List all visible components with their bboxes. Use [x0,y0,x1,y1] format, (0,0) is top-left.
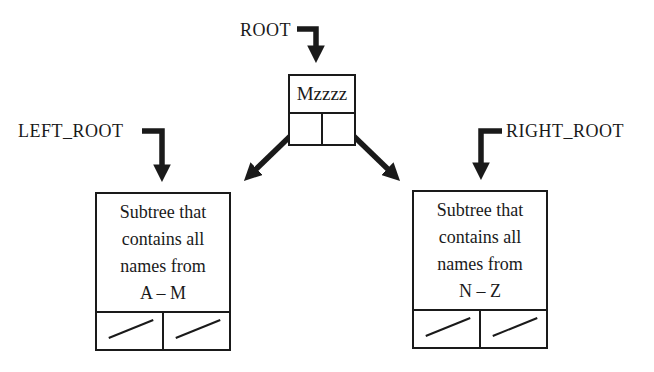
right-subtree-text: Subtree that contains all names from N –… [414,192,546,311]
right-subtree-line: Subtree that [437,197,523,224]
left-subtree-right-pointer-cell [162,313,229,349]
right-subtree-left-pointer-cell [414,311,479,347]
root-node-value: Mzzzz [290,76,354,114]
null-pointer-slash [175,319,220,339]
right-subtree-node: Subtree that contains all names from N –… [412,190,548,349]
right-subtree-right-pointer-cell [479,311,546,347]
left-subtree-pointer-row [97,313,229,349]
root-left-pointer-cell [290,114,321,144]
left-subtree-line: A – M [140,280,186,307]
root-node: Mzzzz [288,74,356,146]
left-subtree-line: Subtree that [120,199,206,226]
right-subtree-line: N – Z [459,278,501,305]
root-pointer-label: ROOT [240,20,291,41]
right-subtree-line: names from [437,251,522,278]
null-pointer-slash [108,319,153,339]
left-subtree-node: Subtree that contains all names from A –… [95,192,231,351]
right-subtree-line: contains all [439,224,521,251]
null-pointer-slash [425,317,470,337]
left-subtree-left-pointer-cell [97,313,162,349]
root-arrow [297,29,316,56]
right-root-arrow [481,131,502,173]
right-subtree-pointer-row [414,311,546,347]
left-root-pointer-label: LEFT_ROOT [18,121,124,142]
root-node-pointer-row [290,114,354,144]
left-root-arrow [142,131,162,175]
left-subtree-text: Subtree that contains all names from A –… [97,194,229,313]
null-pointer-slash [492,317,537,337]
root-right-pointer-cell [321,114,354,144]
binary-tree-diagram: ROOT LEFT_ROOT RIGHT_ROOT Mzzzz Subtree … [0,0,654,372]
right-root-pointer-label: RIGHT_ROOT [506,121,624,142]
left-subtree-line: contains all [122,226,204,253]
left-subtree-line: names from [120,253,205,280]
